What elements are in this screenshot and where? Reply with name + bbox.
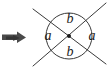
diagram-canvas: b b a a — [0, 0, 108, 71]
intersection-point — [67, 34, 71, 38]
angle-label-bottom: b — [67, 44, 74, 59]
vertical-angles-figure: b b a a — [0, 0, 108, 71]
angle-label-left: a — [45, 28, 52, 43]
angle-label-right: a — [89, 28, 96, 43]
angle-label-top: b — [67, 11, 74, 26]
